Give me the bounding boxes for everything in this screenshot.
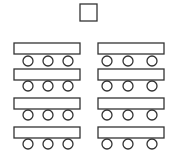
table-group [14,98,80,120]
student-table [98,69,164,80]
classroom-layout-diagram [0,0,173,166]
student-seat [63,110,73,120]
student-seat [43,110,53,120]
student-seat [102,81,112,91]
student-seat [102,139,112,149]
student-seat [123,110,133,120]
student-seat [102,110,112,120]
student-table [14,69,80,80]
student-seat [147,81,157,91]
student-seat [63,56,73,66]
student-seat [23,139,33,149]
table-group [98,69,164,91]
table-group [14,69,80,91]
student-seat [23,56,33,66]
student-table [98,43,164,54]
teacher-desk [80,4,97,21]
student-seat [43,139,53,149]
student-seat [43,56,53,66]
student-seat [63,81,73,91]
table-group [14,127,80,149]
student-table [14,43,80,54]
student-table [14,127,80,138]
student-seat [123,81,133,91]
student-seat [123,56,133,66]
table-group [14,43,80,66]
student-seat [147,56,157,66]
student-table [14,98,80,109]
student-seat [43,81,53,91]
student-seat [147,139,157,149]
table-group [98,127,164,149]
table-group [98,43,164,66]
table-group [98,98,164,120]
student-seat [147,110,157,120]
student-seat [123,139,133,149]
student-seat [23,110,33,120]
student-table [98,127,164,138]
student-table [98,98,164,109]
student-seat [23,81,33,91]
student-seat [102,56,112,66]
student-seat [63,139,73,149]
